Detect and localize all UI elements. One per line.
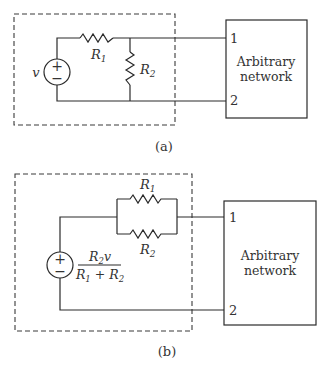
terminal-1-a: 1 (230, 31, 238, 46)
source-minus-a: − (51, 70, 63, 86)
terminal-2-a: 2 (230, 93, 238, 108)
wire-b-top-left (60, 217, 117, 252)
source-label-a: v (32, 65, 40, 80)
terminal-1-b: 1 (229, 210, 237, 225)
figure-b: + − R2v R1 + R2 R1 R2 1 2 Arbitrary netw… (15, 174, 316, 359)
source-value-denominator: R1 + R2 (75, 267, 124, 284)
resistor-r2-b (117, 230, 177, 238)
network-label-b-line2: network (244, 263, 297, 278)
figure-a: + − v R1 R2 1 2 Arbitrary network (a) (14, 14, 307, 154)
caption-b: (b) (158, 344, 176, 359)
resistor-r2-a (126, 52, 134, 85)
network-label-a-line1: Arbitrary (236, 54, 296, 69)
wire-a-top-left (57, 38, 80, 59)
terminal-2-b: 2 (229, 303, 237, 318)
network-label-b-line1: Arbitrary (240, 248, 300, 263)
source-minus-b: − (54, 263, 66, 279)
resistor-r1-a (80, 34, 113, 42)
r2-label-a: R2 (139, 62, 156, 79)
wire-a-bottom (57, 85, 226, 101)
network-label-a-line2: network (240, 69, 293, 84)
resistor-r1-b (117, 195, 177, 203)
r1-label-a: R1 (90, 47, 107, 64)
r1-label-b: R1 (139, 177, 156, 194)
r2-label-b: R2 (139, 242, 156, 259)
circuit-figure: + − v R1 R2 1 2 Arbitrary network (a) + … (0, 0, 328, 369)
caption-a: (a) (155, 139, 173, 154)
source-value-numerator: R2v (88, 249, 111, 266)
